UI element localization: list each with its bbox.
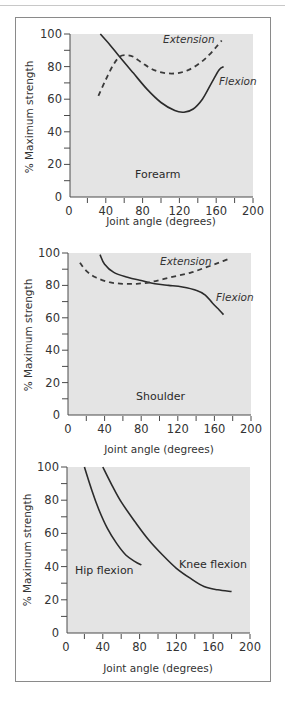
y-tick-label: 40 [47, 125, 62, 139]
y-axis-title: % Maximum strength [23, 61, 35, 174]
y-tick-label: 100 [40, 27, 62, 41]
y-tick-label: 80 [47, 60, 62, 74]
x-tick-label: 120 [167, 422, 189, 436]
x-tick-label: 80 [132, 640, 147, 654]
x-tick-label: 0 [64, 422, 71, 436]
label-flexion: Flexion [216, 291, 254, 303]
y-tick-label: 80 [45, 278, 60, 292]
y-tick-label: 100 [37, 460, 59, 474]
y-tick-label: 40 [45, 343, 60, 357]
x-tick-label: 200 [242, 204, 264, 218]
x-tick-label: 120 [165, 640, 187, 654]
y-tick-label: 80 [44, 493, 59, 507]
x-tick-label: 200 [239, 640, 261, 654]
x-axis-title: Joint angle (degrees) [103, 443, 213, 455]
x-tick-label: 80 [134, 422, 149, 436]
y-tick-label: 0 [53, 408, 60, 422]
y-tick-label: 20 [44, 593, 59, 607]
label-shoulder: Shoulder [136, 390, 185, 403]
y-tick-label: 60 [44, 526, 59, 540]
label-extension: Extension [163, 33, 215, 45]
x-tick-label: 0 [65, 204, 72, 218]
x-axis-title: Joint angle (degrees) [102, 662, 212, 674]
x-tick-label: 200 [240, 422, 262, 436]
chart-forearm: 02040608010004080120160200 Extension Fle… [23, 27, 264, 227]
label-extension: Extension [160, 255, 212, 267]
x-tick-label: 40 [95, 640, 110, 654]
y-axis-title: % Maximum strength [22, 279, 34, 392]
x-tick-label: 160 [202, 640, 224, 654]
label-knee-flexion: Knee flexion [179, 558, 247, 571]
chart-hip-knee: 02040608010004080120160200 Hip flexion K… [21, 460, 261, 674]
label-flexion: Flexion [219, 75, 257, 87]
y-tick-label: 20 [47, 157, 62, 171]
y-tick-label: 60 [45, 311, 60, 325]
x-axis-title: Joint angle (degrees) [105, 215, 215, 227]
label-hip-flexion: Hip flexion [75, 564, 134, 577]
x-tick-label: 40 [97, 422, 112, 436]
label-forearm: Forearm [135, 168, 181, 181]
y-tick-label: 0 [52, 626, 59, 640]
x-tick-label: 0 [62, 640, 69, 654]
x-tick-label: 160 [203, 422, 225, 436]
y-tick-label: 40 [44, 560, 59, 574]
y-tick-label: 20 [45, 376, 60, 390]
y-axis-title: % Maximum strength [21, 494, 33, 607]
y-tick-label: 100 [38, 246, 60, 260]
chart-shoulder: 02040608010004080120160200 Extension Fle… [22, 246, 262, 455]
y-tick-label: 60 [47, 92, 62, 106]
y-tick-label: 0 [55, 190, 62, 204]
figure-svg: 02040608010004080120160200 Extension Fle… [0, 0, 285, 703]
